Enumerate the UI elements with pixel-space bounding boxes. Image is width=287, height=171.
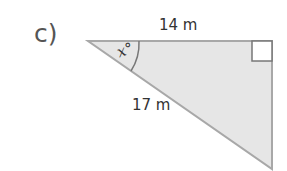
right-angle-marker bbox=[252, 41, 272, 61]
triangle-shape bbox=[88, 41, 272, 169]
top-side-length: 14 m bbox=[159, 18, 197, 33]
right-triangle-diagram bbox=[0, 0, 287, 171]
hypotenuse-length: 17 m bbox=[132, 98, 170, 113]
